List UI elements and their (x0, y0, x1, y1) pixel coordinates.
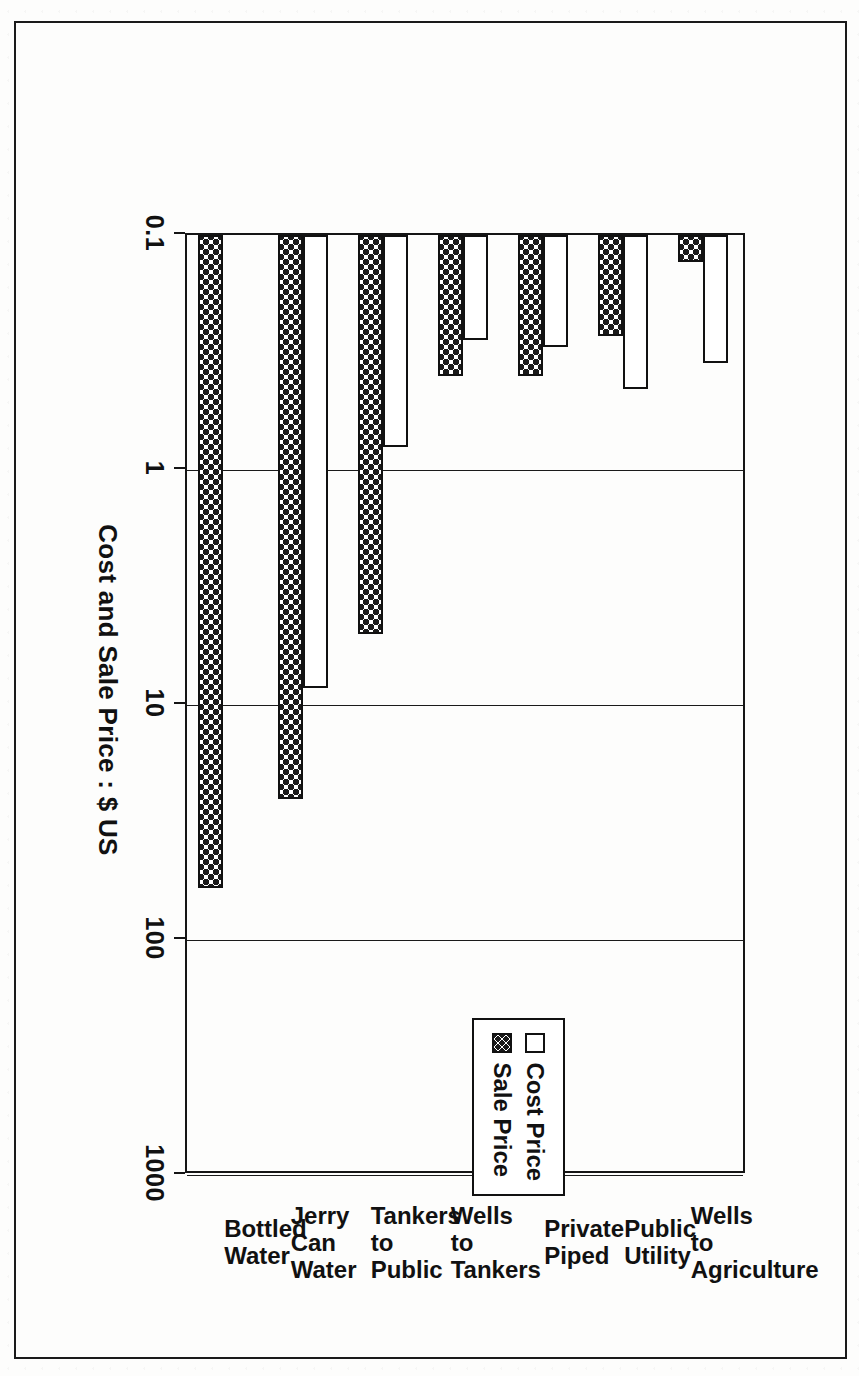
bar-sale-price (438, 235, 463, 376)
axis-tick-mark (174, 467, 185, 469)
bar-sale-price (198, 235, 223, 888)
bar-cost-price (303, 235, 328, 688)
legend-swatch-sale (492, 1033, 512, 1053)
bar-sale-price (518, 235, 543, 376)
axis-tick-mark (174, 702, 185, 704)
gridline (187, 470, 743, 471)
gridline (187, 705, 743, 706)
bar-sale-price (598, 235, 623, 336)
bar-sale-price (278, 235, 303, 799)
axis-tick-mark (174, 937, 185, 939)
axis-tick-label: 0.1 (140, 215, 169, 251)
axis-tick-mark (174, 232, 185, 234)
axis-tick-label: 1 (140, 461, 169, 475)
legend-swatch-cost (525, 1033, 545, 1053)
axis-title: Cost and Sale Price : $ US (92, 115, 123, 1265)
bar-cost-price (623, 235, 648, 389)
bar-cost-price (543, 235, 568, 347)
legend-item: Cost Price (521, 1033, 549, 1181)
figure-border: 0.11101001000 Wells to AgriculturePublic… (14, 21, 847, 1359)
bar-sale-price (358, 235, 383, 634)
bar-cost-price (383, 235, 408, 447)
axis-tick-label: 10 (140, 689, 169, 718)
axis-tick-label: 100 (140, 916, 169, 959)
plot-area (185, 233, 745, 1173)
legend: Cost PriceSale Price (472, 1018, 565, 1196)
axis-tick-mark (174, 1172, 185, 1174)
axis-tick-label: 1000 (140, 1144, 169, 1202)
chart: 0.11101001000 Wells to AgriculturePublic… (81, 115, 781, 1265)
bar-cost-price (463, 235, 488, 340)
bar-sale-price (678, 235, 703, 262)
bar-cost-price (703, 235, 728, 363)
legend-label: Sale Price (488, 1062, 516, 1177)
gridline (187, 940, 743, 941)
scanned-page: 0.11101001000 Wells to AgriculturePublic… (0, 0, 859, 1376)
rotated-chart-stage: 0.11101001000 Wells to AgriculturePublic… (81, 115, 781, 1265)
legend-label: Cost Price (521, 1062, 549, 1181)
gridline (187, 1175, 743, 1176)
legend-item: Sale Price (488, 1033, 516, 1181)
